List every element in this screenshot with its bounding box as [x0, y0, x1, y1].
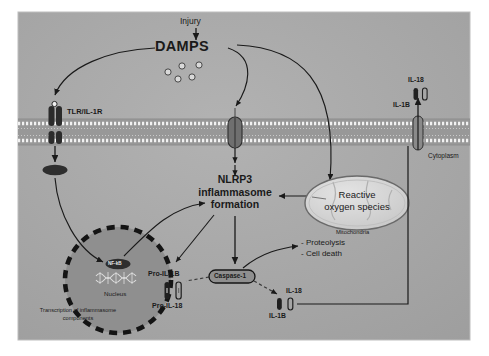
outcomes-list: - Proteolysis - Cell death: [301, 238, 345, 259]
injury-label: Injury: [180, 16, 201, 26]
plasma-membrane: [18, 119, 470, 145]
reactive-oxygen-species-label: Reactive oxygen species: [312, 189, 402, 213]
pro-il18-label: Pro-IL-18: [152, 302, 182, 309]
outcome-cell-death: - Cell death: [301, 249, 345, 260]
tlr-il1r-label: TLR/IL-1R: [67, 107, 102, 116]
nlrp3-line-2: inflammasome: [189, 186, 281, 199]
il18-label-bottom: IL-18: [286, 287, 302, 294]
ros-line-1: Reactive: [312, 189, 402, 201]
outcome-proteolysis: - Proteolysis: [301, 238, 345, 249]
cytoplasm-label: Cytoplasm: [428, 152, 459, 159]
damps-label: DAMPS: [155, 38, 209, 54]
nucleus-label: Nucleus: [104, 290, 126, 297]
nlrp3-formation-label: NLRP3 inflammasome formation: [189, 173, 281, 211]
figure-canvas: Injury DAMPS TLR/IL-1R Cytoplasm IL-18 I…: [0, 0, 489, 356]
transcription-line-1: Transcription of inflammasome: [26, 307, 130, 315]
nfkb-cytoplasmic: [43, 165, 68, 175]
transcription-line-2: components: [26, 315, 130, 323]
nlrp3-line-3: formation: [189, 198, 281, 211]
nlrp3-line-1: NLRP3: [189, 173, 281, 186]
il1b-glyph-top: [414, 88, 419, 100]
caspase-1-label: Caspase-1: [214, 272, 246, 279]
il1b-glyph-bottom: [277, 298, 282, 310]
transcription-label: Transcription of inflammasome components: [26, 307, 130, 322]
pro-il1b-label: Pro-IL-1B: [148, 270, 180, 277]
ros-line-2: oxygen species: [312, 201, 402, 213]
nfkb-label: NF-kB: [108, 261, 122, 266]
il18-label-top: IL-18: [408, 76, 424, 83]
il1b-label-bottom: IL-1B: [269, 312, 286, 319]
mitochondria-label: Mitochondria: [336, 229, 369, 235]
il1b-label-top: IL-1B: [393, 101, 410, 108]
